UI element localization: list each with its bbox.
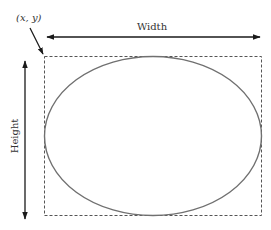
bounding-box	[45, 57, 262, 216]
width-label: Width	[137, 21, 168, 32]
ellipse-shape	[45, 57, 262, 216]
origin-label: (x, y)	[16, 12, 42, 23]
height-label: Height	[9, 119, 20, 154]
ellipse-bounding-box-diagram: (x, y) Width Height	[0, 0, 271, 230]
origin-pointer-arrow	[30, 28, 43, 54]
